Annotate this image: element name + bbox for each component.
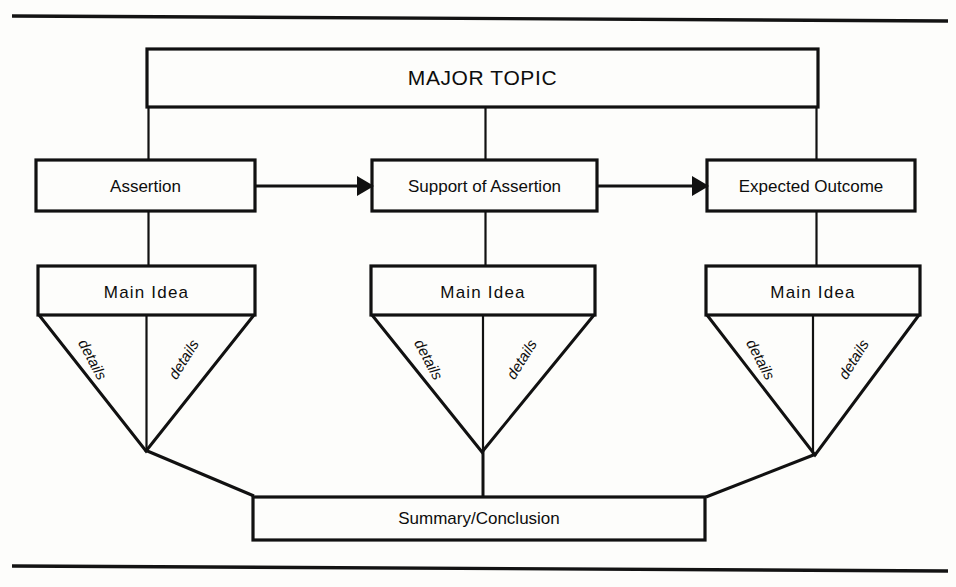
details-label-2-left: details: [411, 336, 447, 383]
funnel-group-1: Main Idea details details: [38, 266, 255, 496]
stage-label-support-of-assertion: Support of Assertion: [408, 177, 561, 196]
main-idea-label-2: Main Idea: [440, 283, 525, 302]
stage-label-expected-outcome: Expected Outcome: [739, 177, 884, 196]
horizontal-rule-bottom: [12, 566, 948, 571]
summary-conclusion-label: Summary/Conclusion: [398, 509, 560, 528]
horizontal-rule-top: [12, 16, 948, 21]
funnel-leg-1-to-summary: [145, 450, 254, 496]
details-label-1-right: details: [165, 336, 203, 382]
details-label-1-left: details: [75, 336, 111, 383]
arrow-support-to-outcome: [597, 176, 709, 196]
arrow-assertion-to-support: [255, 176, 374, 196]
funnel-leg-3-to-summary: [706, 454, 816, 497]
main-idea-label-3: Main Idea: [770, 283, 855, 302]
details-label-2-right: details: [503, 336, 541, 382]
details-label-3-right: details: [835, 336, 873, 382]
diagram-page: MAJOR TOPIC Assertion Support of Asserti…: [0, 0, 956, 587]
major-topic-label: MAJOR TOPIC: [408, 66, 557, 89]
stage-label-assertion: Assertion: [110, 177, 181, 196]
details-label-3-left: details: [743, 336, 779, 383]
funnel-group-3: Main Idea details details: [706, 266, 920, 497]
funnel-group-2: Main Idea details details: [371, 266, 595, 497]
main-idea-label-1: Main Idea: [104, 283, 189, 302]
flow-diagram-canvas: MAJOR TOPIC Assertion Support of Asserti…: [0, 0, 956, 587]
